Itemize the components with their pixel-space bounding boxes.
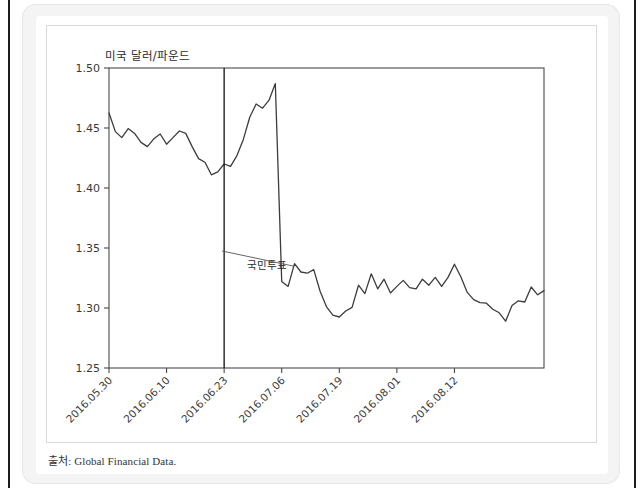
page-binding-edge-left (8, 0, 10, 488)
plot-area-border (109, 68, 544, 368)
x-axis-tick-label: 2016.06.23 (179, 374, 230, 425)
page-binding-edge-right (634, 0, 636, 488)
x-axis-tick-label: 2016.05.30 (63, 374, 114, 425)
x-axis-tick-label: 2016.08.01 (351, 374, 402, 425)
line-chart: 1.501.451.401.351.301.25 2016.05.302016.… (47, 26, 598, 444)
series-line-usd-per-gbp (109, 84, 544, 322)
x-axis-tick-label: 2016.06.10 (121, 374, 172, 425)
y-axis-label: 미국 달러/파운드 (105, 49, 190, 63)
x-axis-tick-group: 2016.05.302016.06.102016.06.232016.07.06… (63, 368, 459, 425)
y-axis-tick-label: 1.40 (76, 182, 101, 195)
chart-svg: 1.501.451.401.351.301.25 2016.05.302016.… (47, 26, 598, 444)
plot-frame (109, 68, 544, 368)
y-axis-tick-group: 1.501.451.401.351.301.25 (76, 62, 110, 375)
annotation-group: 국민투표 (222, 251, 293, 271)
y-axis-tick-label: 1.45 (76, 122, 101, 135)
page-background: 1.501.451.401.351.301.25 2016.05.302016.… (0, 0, 642, 488)
y-axis-tick-label: 1.50 (76, 62, 101, 75)
y-axis-tick-label: 1.25 (76, 362, 101, 375)
y-axis-tick-label: 1.30 (76, 302, 101, 315)
x-axis-tick-label: 2016.07.06 (236, 374, 287, 425)
x-axis-tick-label: 2016.08.12 (409, 374, 460, 425)
series-group (109, 84, 544, 322)
x-axis-tick-label: 2016.07.19 (294, 374, 345, 425)
source-note: 출처: Global Financial Data. (48, 452, 176, 468)
figure-container: 1.501.451.401.351.301.25 2016.05.302016.… (46, 25, 597, 443)
y-axis-tick-label: 1.35 (76, 242, 101, 255)
